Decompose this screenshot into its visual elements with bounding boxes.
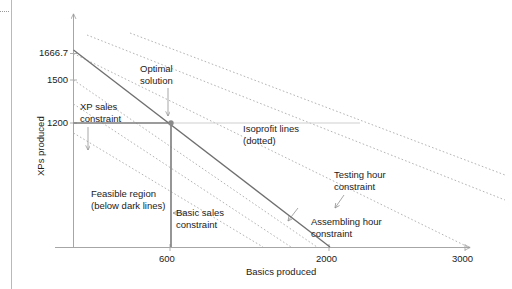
x-axis-title: Basics produced: [246, 266, 316, 278]
isoprofit-lines-label: Isoprofit lines (dotted): [243, 123, 299, 146]
basic-sales-constraint-label: Basic sales constraint: [176, 207, 224, 230]
optimal-solution-point: [168, 120, 173, 125]
y-tick-label-1666: 1666.7: [39, 47, 68, 58]
x-tick-label-600: 600: [159, 253, 175, 264]
assembling-hour-constraint-label: Assembling hour constraint: [311, 216, 382, 239]
basic-sales-label-line2: constraint: [176, 219, 217, 230]
isoprofit-line-5: [130, 33, 505, 175]
y-tick-label-1500: 1500: [47, 74, 68, 85]
feasible-region-label: Feasible region (below dark lines): [91, 188, 165, 211]
testing-hour-constraint-label: Testing hour constraint: [334, 169, 386, 192]
figure-canvas: 1666.7 1500 1200 600 2000 3000 XPs produ…: [0, 0, 512, 289]
testing-hour-label-line1: Testing hour: [334, 169, 386, 180]
assembling-hour-label-line2: constraint: [311, 228, 352, 239]
isoprofit-label-line1: Isoprofit lines: [243, 123, 299, 134]
optimal-solution-label: Optimal solution: [140, 63, 173, 86]
xp-sales-label-line2: constraint: [80, 113, 121, 124]
optimal-solution-label-line2: solution: [140, 75, 173, 86]
xp-sales-label-line1: XP sales: [80, 101, 117, 112]
testing-hour-arrow: [335, 195, 344, 208]
basic-sales-label-line1: Basic sales: [176, 207, 224, 218]
isoprofit-line-4: [87, 35, 505, 200]
x-tick-label-3000: 3000: [452, 253, 473, 264]
testing-hour-label-line2: constraint: [334, 181, 375, 192]
assembling-hour-label-line1: Assembling hour: [311, 216, 382, 227]
feasible-region-label-line1: Feasible region: [91, 188, 156, 199]
y-tick-label-1200: 1200: [47, 117, 68, 128]
feasible-region-label-line2: (below dark lines): [91, 200, 165, 211]
optimal-solution-label-line1: Optimal: [140, 63, 173, 74]
testing-hour-constraint-line: [74, 54, 469, 248]
y-axis-title: XPs produced: [35, 116, 46, 176]
isoprofit-label-line2: (dotted): [243, 135, 276, 146]
x-tick-label-2000: 2000: [316, 253, 337, 264]
xp-sales-constraint-label: XP sales constraint: [80, 101, 121, 124]
